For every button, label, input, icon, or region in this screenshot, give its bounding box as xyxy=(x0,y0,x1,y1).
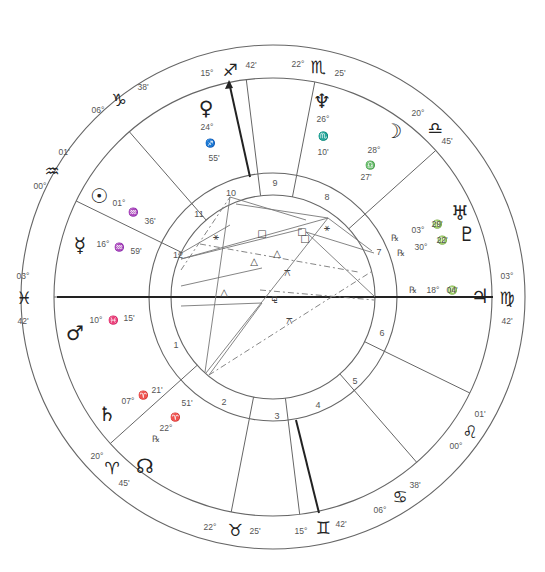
cusp-degree: 22° xyxy=(292,59,305,69)
planet-position-text: 27' xyxy=(360,172,371,182)
zodiac-cusp-cancer: ♋06°38' xyxy=(374,480,421,515)
cusp-minutes: 42' xyxy=(501,316,512,326)
aspect-line xyxy=(181,268,262,286)
zodiac-cusp-virgo: ♍03°42' xyxy=(499,271,514,326)
planet-position-text: 04' xyxy=(446,285,457,295)
aspect-line xyxy=(181,197,230,270)
aquarius-icon: ♒ xyxy=(44,161,59,181)
planet-position-text: 24° xyxy=(201,122,214,132)
aspect-line xyxy=(205,197,230,372)
aspect-symbol-icon: ⚼ xyxy=(271,292,278,303)
zodiac-cusp-aquarius: ♒00°01' xyxy=(34,147,70,191)
cusp-degree: 03° xyxy=(17,271,30,281)
pisces-icon: ♓ xyxy=(16,288,31,308)
planet-position-text: 59' xyxy=(130,246,141,256)
house-number-11: 11 xyxy=(194,209,203,219)
zodiac-cusp-taurus: ♉22°25' xyxy=(204,520,261,540)
cusp-degree: 22° xyxy=(204,522,217,532)
planet-position-text: 18° xyxy=(427,285,440,295)
aspect-symbol-icon: ⚹ xyxy=(324,222,330,233)
planet-position-text: 15' xyxy=(123,313,134,323)
mercury-icon: ☿ xyxy=(74,233,86,257)
aspect-line xyxy=(181,229,302,259)
house-number-4: 4 xyxy=(315,400,320,410)
house-cusp-line xyxy=(340,374,417,462)
aspect-line xyxy=(306,232,374,253)
aries-icon: ♈ xyxy=(104,458,119,478)
aspect-symbol-icon: △ xyxy=(220,287,228,298)
cusp-minutes: 38' xyxy=(137,82,148,92)
planet-moon: ☽28°♎27' xyxy=(360,119,402,182)
aspect-line xyxy=(209,303,262,375)
ic-axis xyxy=(296,420,319,513)
planet-position-text: 22° xyxy=(160,423,173,433)
zodiac-cusp-capricorn: ♑06°38' xyxy=(92,82,149,115)
planet-neptune: ♆26°♏10' xyxy=(313,89,331,157)
libra-icon: ♎ xyxy=(427,118,442,138)
aspect-symbol-icon: ⚻ xyxy=(286,315,293,326)
cusp-minutes: 45' xyxy=(118,478,129,488)
cusp-minutes: 42' xyxy=(17,316,28,326)
natal-chart-wheel: ♓03°42'♒00°01'♑06°38'♐15°42'♏22°25'♎20°4… xyxy=(0,0,545,572)
planet-position-text: ♎ xyxy=(365,160,376,170)
planet-mars: ♂10°♓15' xyxy=(66,313,135,345)
zodiac-cusp-sagittarius: ♐15°42' xyxy=(201,60,257,80)
planet-position-text: ℞ xyxy=(397,248,405,258)
planet-position-text: 36' xyxy=(144,216,155,226)
planet-position-text: 03° xyxy=(412,225,425,235)
planet-position-text: 21' xyxy=(151,385,162,395)
mc-axis xyxy=(229,82,250,177)
zodiac-cusp-scorpio: ♏22°25' xyxy=(292,57,346,78)
planet-position-text: 01° xyxy=(113,198,126,208)
aspect-line xyxy=(306,232,375,297)
house-cusp-line xyxy=(246,80,260,196)
sun-icon: ☉ xyxy=(90,184,108,208)
saturn-icon: ♄ xyxy=(98,402,116,426)
venus-icon: ♀ xyxy=(199,96,214,120)
planet-position-text: ♓ xyxy=(108,315,119,325)
zodiac-labels: ♓03°42'♒00°01'♑06°38'♐15°42'♏22°25'♎20°4… xyxy=(16,57,514,540)
aspect-symbol-icon: □ xyxy=(257,228,266,239)
house-cusp-line xyxy=(129,132,206,220)
planet-position-text: ♒ xyxy=(114,242,125,252)
house-number-6: 6 xyxy=(379,328,384,338)
planet-position-text: 26° xyxy=(317,114,330,124)
mc-arrow-icon xyxy=(225,80,233,89)
taurus-icon: ♉ xyxy=(227,520,242,540)
aspect-line xyxy=(236,204,328,218)
aspect-symbol-icon: ⚹ xyxy=(213,231,219,242)
house-number-12: 12 xyxy=(173,250,183,260)
house-numbers: 123456789101112 xyxy=(173,178,385,421)
planet-position-text: ℞ xyxy=(409,285,417,295)
planet-position-text: ℞ xyxy=(391,233,399,243)
scorpio-icon: ♏ xyxy=(310,57,325,77)
cusp-degree: 20° xyxy=(412,108,425,118)
planet-position-text: 55' xyxy=(208,153,219,163)
cusp-degree: 03° xyxy=(501,271,514,281)
leo-icon: ♌ xyxy=(462,422,477,442)
cusp-minutes: 25' xyxy=(249,526,260,536)
planet-position-text: 22' xyxy=(436,235,447,245)
virgo-icon: ♍ xyxy=(499,288,514,308)
house-number-9: 9 xyxy=(272,178,277,188)
cusp-minutes: 42' xyxy=(245,60,256,70)
cusp-degree: 15° xyxy=(295,526,308,536)
house-cusp-line xyxy=(285,398,299,514)
cusp-minutes: 25' xyxy=(334,68,345,78)
jupiter-icon: ♃ xyxy=(471,284,489,308)
zodiac-cusp-aries: ♈20°45' xyxy=(91,451,130,488)
planet-position-text: ♈ xyxy=(170,412,181,422)
gemini-icon: ♊ xyxy=(315,518,330,538)
house-number-5: 5 xyxy=(352,376,357,386)
planet-venus: ♀24°♐55' xyxy=(199,96,220,163)
planet-position-text: 30° xyxy=(415,242,428,252)
planet-mercury: ☿16°♒59' xyxy=(74,233,142,257)
mars-icon: ♂ xyxy=(66,321,84,345)
aspect-line xyxy=(181,303,262,306)
aspect-symbol-icon: ⚻ xyxy=(284,267,291,278)
pluto-icon: ♇ xyxy=(458,222,476,246)
cusp-degree: 15° xyxy=(201,68,214,78)
cusp-degree: 00° xyxy=(34,181,47,191)
sagittarius-icon: ♐ xyxy=(222,60,237,80)
house-number-8: 8 xyxy=(324,192,329,202)
